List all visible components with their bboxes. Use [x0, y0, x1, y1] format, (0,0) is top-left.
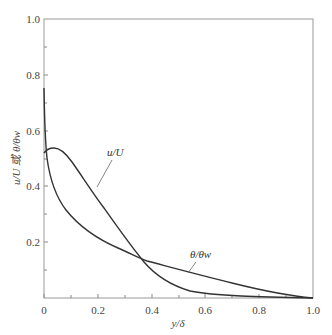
y-tick-label: 0.6: [26, 125, 40, 137]
plot-frame: [44, 19, 313, 298]
theta-curve-label: θ/θw: [190, 248, 212, 260]
y-axis-label: u/U 或 θ/θw: [10, 130, 22, 185]
x-tick-label: 0.8: [252, 304, 266, 316]
y-tick-label: 0.8: [26, 69, 40, 81]
y-tick-label: 0.4: [26, 180, 40, 192]
x-axis-label: y/δ: [170, 317, 185, 329]
x-tick-label: 1.0: [306, 304, 320, 316]
x-tick-label: 0.4: [145, 304, 159, 316]
x-tick-label: 0.2: [91, 304, 105, 316]
u-label-leader: [97, 160, 112, 187]
y-tick-label: 1.0: [26, 13, 40, 25]
x-tick-label: 0: [41, 304, 47, 316]
y-tick-label: 0.2: [26, 236, 40, 248]
x-tick-label: 0.6: [198, 304, 212, 316]
chart: 0 0.2 0.4 0.6 0.8 1.0 0.2 0.4 0.6 0.8 1.…: [0, 0, 332, 335]
u-curve-label: u/U: [107, 146, 125, 158]
u-curve: [44, 148, 313, 298]
theta-curve: [44, 88, 313, 298]
theta-label-leader: [188, 262, 196, 273]
